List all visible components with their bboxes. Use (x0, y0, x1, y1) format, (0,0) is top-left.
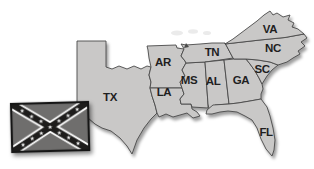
star-icon: ★ (48, 124, 53, 130)
star-icon: ★ (39, 130, 44, 136)
state-label-tn: TN (205, 46, 220, 58)
star-icon: ★ (66, 112, 71, 118)
confederate-states-map-svg: TX AR LA MS TN AL GA SC NC VA FL ★ ★ (0, 0, 314, 169)
map-graphic: TX AR LA MS TN AL GA SC NC VA FL ★ ★ (0, 0, 314, 169)
star-icon: ★ (56, 118, 61, 124)
state-label-la: LA (157, 86, 172, 98)
state-label-fl: FL (259, 126, 273, 138)
smudge (171, 31, 183, 36)
state-label-tx: TX (103, 91, 118, 103)
star-icon: ★ (38, 118, 43, 124)
smudge (203, 31, 211, 35)
star-icon: ★ (66, 135, 71, 141)
star-icon: ★ (29, 113, 34, 119)
state-label-al: AL (206, 75, 221, 87)
state-label-ms: MS (181, 74, 198, 86)
confederate-flag: ★ ★ ★ ★ ★ ★ ★ ★ ★ ★ ★ ★ ★ (11, 102, 89, 152)
star-icon: ★ (30, 136, 35, 142)
star-icon: ★ (75, 140, 80, 146)
state-label-nc: NC (265, 42, 281, 54)
star-icon: ★ (20, 142, 25, 148)
star-icon: ★ (20, 107, 25, 113)
background-smudges (171, 29, 211, 35)
smudge (188, 29, 198, 33)
state-label-ar: AR (155, 56, 172, 68)
state-label-va: VA (263, 23, 277, 35)
state-label-ga: GA (233, 74, 250, 86)
star-icon: ★ (75, 106, 80, 112)
star-icon: ★ (57, 129, 62, 135)
state-label-sc: SC (254, 63, 269, 75)
